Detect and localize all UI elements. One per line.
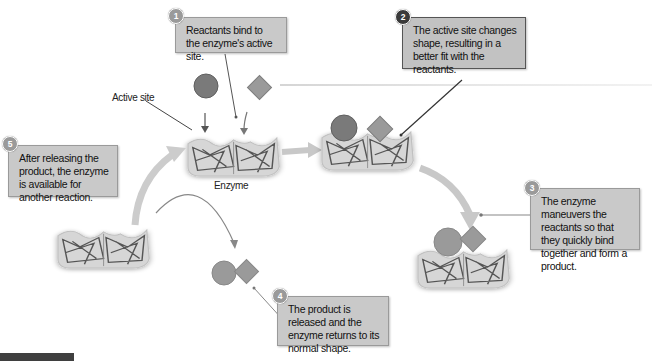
step2-note: The active site changes shape, resulting…: [402, 17, 526, 69]
step4-badge: 4: [272, 288, 288, 304]
reactant-circle: [194, 74, 218, 98]
step5-badge: 5: [2, 136, 18, 152]
step1-note: Reactants bind to the enzyme's active si…: [175, 17, 287, 53]
step5-note: After releasing the product, the enzyme …: [8, 145, 118, 197]
active-site-label: Active site: [112, 92, 154, 103]
enzyme-diagram: Active site Enzyme Reactants bind to the…: [0, 0, 652, 361]
reactant-diamond: [247, 75, 271, 99]
enzyme-step1: [188, 138, 279, 176]
step3-note: The enzyme maneuvers the reactants so th…: [530, 188, 640, 250]
step2-badge: 2: [395, 9, 411, 25]
step5-text: After releasing the product, the enzyme …: [19, 152, 108, 203]
step2-text: The active site changes shape, resulting…: [413, 24, 516, 75]
step4-note: The product is released and the enzyme r…: [277, 296, 389, 346]
enzyme-label: Enzyme: [214, 180, 248, 191]
step1-badge: 1: [168, 8, 184, 24]
step3-badge: 3: [524, 180, 540, 196]
footer-bar: [0, 353, 74, 361]
